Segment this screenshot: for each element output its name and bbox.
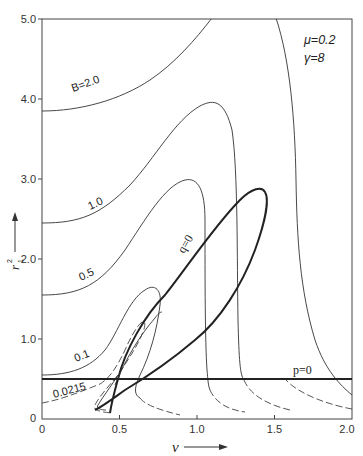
chart-canvas: 5.0 4.0 3.0 2.0 1.0 0 0 0.5 1.0 1.5 2.0 … (0, 0, 363, 456)
label-p0: p=0 (293, 363, 312, 377)
x-tick-2: 1.0 (189, 423, 204, 435)
label-q0: q=0 (174, 232, 196, 255)
curve-b01 (42, 287, 160, 398)
curve-b05 (42, 180, 210, 390)
x-label-nu: ν (172, 439, 179, 455)
y-axis: 5.0 4.0 3.0 2.0 1.0 0 (21, 13, 42, 424)
curve-b05-unstable (210, 390, 245, 412)
label-b2: B=2.0 (70, 73, 101, 94)
y-tick-5: 5.0 (21, 13, 36, 25)
curve-b2-upper (42, 18, 212, 111)
arrow-right-icon (219, 444, 228, 450)
x-tick-1: 0.5 (112, 423, 127, 435)
label-b10: 1.0 (86, 194, 105, 211)
curve-b00215 (42, 322, 145, 413)
label-b01: 0.1 (72, 347, 91, 364)
y-tick-3: 3.0 (21, 173, 36, 185)
curve-b01-unstable (140, 398, 180, 415)
x-tick-3: 1.5 (267, 423, 282, 435)
curve-b10 (42, 102, 244, 380)
x-tick-0: 0 (39, 423, 45, 435)
param-mu: μ=0.2 (303, 33, 336, 47)
y-label-sup: 2 (6, 259, 13, 263)
y-tick-4: 4.0 (21, 93, 36, 105)
y-tick-0: 0 (30, 412, 36, 424)
x-axis: 0 0.5 1.0 1.5 2.0 (39, 415, 355, 435)
curve-b2-right (276, 18, 352, 395)
y-label-sub: 1 (17, 259, 24, 263)
curve-q0-parallel (115, 312, 162, 385)
label-b05: 0.5 (77, 265, 96, 282)
y-tick-1: 1.0 (21, 333, 36, 345)
arrow-up-icon (12, 212, 18, 221)
param-gamma: γ=8 (304, 51, 325, 65)
curve-b10-unstable (244, 380, 290, 410)
x-tick-4: 2.0 (339, 423, 354, 435)
label-b00215: 0.0215 (51, 380, 87, 400)
x-axis-label: ν (172, 439, 228, 455)
curve-b2-unstable (286, 380, 352, 409)
y-axis-label: r 2 1 (6, 212, 24, 270)
